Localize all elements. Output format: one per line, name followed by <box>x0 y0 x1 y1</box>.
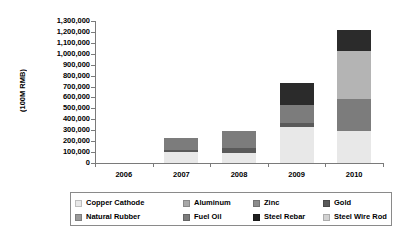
y-axis-tick <box>91 108 96 109</box>
x-axis-line <box>95 163 383 164</box>
x-axis-tick <box>268 163 269 167</box>
y-axis-tick-label: 800,000 <box>2 72 90 80</box>
x-axis-tick <box>153 163 154 167</box>
legend-label: Copper Cathode <box>86 199 144 207</box>
legend-label: Steel Wire Rod <box>334 213 387 221</box>
y-axis-tick-label: 600,000 <box>2 93 90 101</box>
legend-label: Fuel Oil <box>194 213 222 221</box>
legend-row: Natural RubberFuel OilSteel RebarSteel W… <box>75 210 387 224</box>
bar-2009 <box>280 83 314 163</box>
x-axis-tick-label: 2007 <box>153 170 211 179</box>
legend-label: Natural Rubber <box>86 213 140 221</box>
y-axis-tick-label: 1,200,000 <box>2 28 90 36</box>
bar-segment-fuel-oil <box>164 138 198 150</box>
x-axis-tick <box>210 163 211 167</box>
legend-item-aluminum[interactable]: Aluminum <box>183 199 231 207</box>
y-axis-tick <box>91 87 96 88</box>
x-axis-tick <box>325 163 326 167</box>
bar-2008 <box>222 131 256 163</box>
y-axis-tick <box>91 141 96 142</box>
bar-segment-copper-cathode <box>337 131 371 163</box>
y-axis-tick-label: 300,000 <box>2 126 90 134</box>
legend-swatch-icon <box>253 200 260 207</box>
legend-swatch-icon <box>323 200 330 207</box>
y-axis-tick-labels: 1,300,0001,200,0001,100,0001,000,000900,… <box>0 0 90 180</box>
y-axis-tick <box>91 130 96 131</box>
chart-figure: (100M RMB) 1,300,0001,200,0001,100,0001,… <box>0 0 402 240</box>
legend-item-steel-rebar[interactable]: Steel Rebar <box>253 213 305 221</box>
y-axis-tick <box>91 152 96 153</box>
y-axis-tick-label: 200,000 <box>2 137 90 145</box>
x-axis-tick <box>383 163 384 167</box>
bar-2007 <box>164 138 198 163</box>
bar-segment-steel-rebar <box>337 30 371 51</box>
bar-segment-gold <box>164 150 198 152</box>
x-axis-tick <box>95 163 96 167</box>
y-axis-tick <box>91 43 96 44</box>
y-axis-tick <box>91 119 96 120</box>
legend-item-fuel-oil[interactable]: Fuel Oil <box>183 213 222 221</box>
bar-segment-steel-wire-rod <box>337 51 371 99</box>
y-axis-tick-label: 500,000 <box>2 104 90 112</box>
y-axis-tick-label: 0 <box>2 159 90 167</box>
bar-segment-gold <box>222 148 256 152</box>
x-axis-tick-label: 2006 <box>95 170 153 179</box>
y-axis-tick <box>91 65 96 66</box>
legend-item-copper-cathode[interactable]: Copper Cathode <box>75 199 144 207</box>
bar-segment-copper-cathode <box>280 127 314 163</box>
bar-segment-fuel-oil <box>280 105 314 123</box>
legend-swatch-icon <box>183 214 190 221</box>
bar-segment-copper-cathode <box>222 153 256 163</box>
y-axis-tick <box>91 32 96 33</box>
y-axis-tick <box>91 76 96 77</box>
y-axis-tick-label: 1,000,000 <box>2 50 90 58</box>
legend-item-steel-wire-rod[interactable]: Steel Wire Rod <box>323 213 387 221</box>
bar-segment-copper-cathode <box>164 152 198 163</box>
legend-label: Gold <box>334 199 351 207</box>
bar-segment-gold <box>280 123 314 127</box>
legend-swatch-icon <box>183 200 190 207</box>
y-axis-tick-label: 100,000 <box>2 148 90 156</box>
legend-swatch-icon <box>253 214 260 221</box>
legend-swatch-icon <box>75 214 82 221</box>
bar-segment-fuel-oil <box>337 99 371 131</box>
y-axis-tick-label: 1,300,000 <box>2 17 90 25</box>
y-axis-tick-label: 400,000 <box>2 115 90 123</box>
x-axis-tick-label: 2010 <box>325 170 383 179</box>
legend-label: Zinc <box>264 199 279 207</box>
bar-segment-fuel-oil <box>222 131 256 148</box>
y-axis-tick <box>91 97 96 98</box>
legend-item-zinc[interactable]: Zinc <box>253 199 279 207</box>
legend-label: Steel Rebar <box>264 213 305 221</box>
y-axis-tick-label: 900,000 <box>2 61 90 69</box>
legend-swatch-icon <box>323 214 330 221</box>
legend-row: Copper CathodeAluminumZincGold <box>75 196 387 210</box>
y-axis-tick-label: 700,000 <box>2 83 90 91</box>
legend-label: Aluminum <box>194 199 231 207</box>
x-axis-tick-label: 2008 <box>210 170 268 179</box>
bar-segment-steel-rebar <box>280 83 314 104</box>
y-axis-tick-label: 1,100,000 <box>2 39 90 47</box>
legend-item-natural-rubber[interactable]: Natural Rubber <box>75 213 140 221</box>
legend-item-gold[interactable]: Gold <box>323 199 351 207</box>
y-axis-tick <box>91 21 96 22</box>
x-axis-tick-label: 2009 <box>268 170 326 179</box>
chart-legend: Copper CathodeAluminumZincGoldNatural Ru… <box>70 192 392 226</box>
y-axis-tick <box>91 54 96 55</box>
legend-swatch-icon <box>75 200 82 207</box>
bar-2010 <box>337 30 371 163</box>
